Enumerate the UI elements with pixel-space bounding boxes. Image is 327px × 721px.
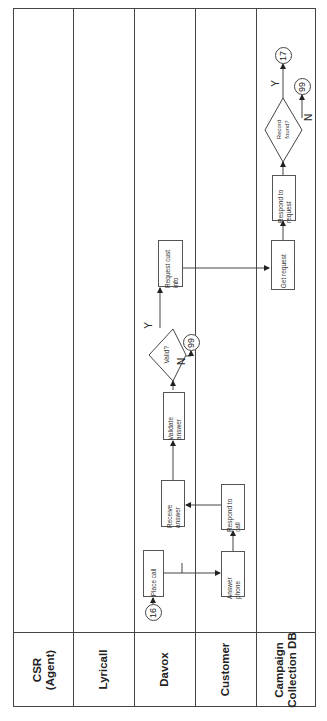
validate-answer-box: Validate answer <box>163 392 185 440</box>
connector-17: 17 <box>275 47 292 64</box>
connector-16: 16 <box>145 604 162 621</box>
request-cust-info-box: Request cust info <box>158 240 183 287</box>
record-found-decision-label: Record found? <box>276 113 291 147</box>
receive-answer-label: Receive answer <box>166 481 181 528</box>
connector-99-valid: 99 <box>183 334 200 351</box>
respond-to-call-box: Respond to call <box>221 484 245 530</box>
record-no-label: N <box>303 114 314 121</box>
respond-to-call-label: Respond to call <box>226 485 241 532</box>
connector-99-record: 99 <box>294 78 311 95</box>
valid-decision-label: Valid? <box>163 340 171 370</box>
place-call-box: Place call <box>143 550 164 597</box>
get-request-label: Get request <box>280 241 288 288</box>
record-yes-label: Y <box>270 80 281 87</box>
place-call-label: Place call <box>150 549 158 596</box>
respond-to-request-box: Respond to request <box>272 175 296 221</box>
receive-answer-box: Receive answer <box>161 480 185 527</box>
respond-to-request-label: Respond to request <box>277 176 292 223</box>
validate-answer-label: Validate answer <box>167 393 182 440</box>
valid-yes-label: Y <box>143 322 154 329</box>
request-cust-info-label: Request cust info <box>164 241 179 288</box>
answer-phone-box: Answer phone <box>221 551 245 597</box>
get-request-box: Get request <box>271 240 295 290</box>
answer-phone-label: Answer phone <box>226 552 241 599</box>
valid-no-label: N <box>176 358 187 365</box>
